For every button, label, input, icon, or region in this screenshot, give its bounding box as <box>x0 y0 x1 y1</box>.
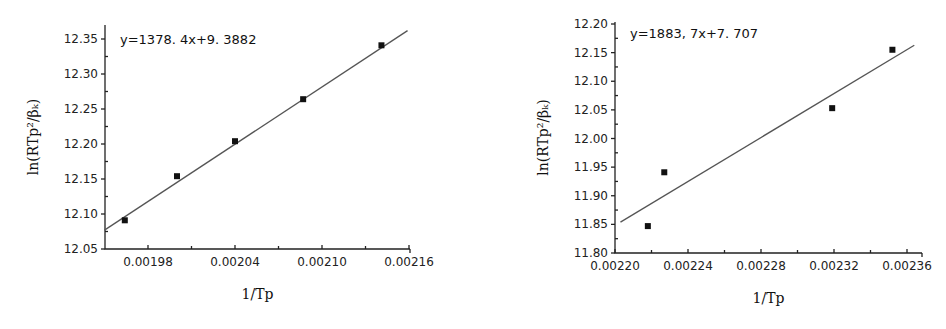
y-tick-label: 12.10 <box>574 74 608 88</box>
chart-canvas: 12.0512.1012.1512.2012.2512.3012.350.001… <box>0 0 946 329</box>
data-point <box>645 223 651 229</box>
y-tick-label: 12.05 <box>64 242 98 256</box>
right-chart: 11.8011.8511.9011.9512.0012.0512.1012.15… <box>535 17 932 306</box>
data-point <box>300 96 306 102</box>
y-tick-label: 12.15 <box>574 46 608 60</box>
x-tick-label: 0.00220 <box>590 259 640 273</box>
y-axis-title: ln(RTp²/βₖ) <box>25 99 41 176</box>
regression-equation: y=1883, 7x+7. 707 <box>630 26 758 41</box>
fit-line <box>620 45 914 222</box>
data-point <box>232 138 238 144</box>
y-tick-label: 12.20 <box>64 137 98 151</box>
y-tick-label: 12.15 <box>64 172 98 186</box>
x-tick-label: 0.00224 <box>663 259 713 273</box>
x-tick-label: 0.00210 <box>297 255 347 269</box>
x-tick-label: 0.00228 <box>736 259 786 273</box>
y-tick-label: 12.05 <box>574 103 608 117</box>
data-point <box>378 42 384 48</box>
data-point <box>661 169 667 175</box>
x-tick-label: 0.00236 <box>882 259 932 273</box>
y-tick-label: 11.80 <box>574 246 608 260</box>
y-tick-label: 11.95 <box>574 160 608 174</box>
y-tick-label: 12.25 <box>64 102 98 116</box>
y-tick-label: 11.90 <box>574 189 608 203</box>
y-tick-label: 12.30 <box>64 67 98 81</box>
regression-equation: y=1378. 4x+9. 3882 <box>120 32 256 47</box>
x-axis-title: 1/Tp <box>753 290 785 306</box>
y-tick-label: 12.20 <box>574 17 608 31</box>
y-tick-label: 12.35 <box>64 32 98 46</box>
data-point <box>829 105 835 111</box>
left-chart: 12.0512.1012.1512.2012.2512.3012.350.001… <box>25 25 434 302</box>
data-point <box>889 47 895 53</box>
y-axis-title: ln(RTp²/βₖ) <box>535 99 551 176</box>
data-point <box>122 217 128 223</box>
x-tick-label: 0.00232 <box>809 259 859 273</box>
x-tick-label: 0.00216 <box>384 255 434 269</box>
x-tick-label: 0.00198 <box>123 255 173 269</box>
fit-line <box>105 31 408 231</box>
axes <box>615 22 922 253</box>
y-tick-label: 12.00 <box>574 132 608 146</box>
y-tick-label: 12.10 <box>64 207 98 221</box>
data-point <box>174 173 180 179</box>
y-tick-label: 11.85 <box>574 217 608 231</box>
x-axis-title: 1/Tp <box>242 286 274 302</box>
x-tick-label: 0.00204 <box>210 255 260 269</box>
